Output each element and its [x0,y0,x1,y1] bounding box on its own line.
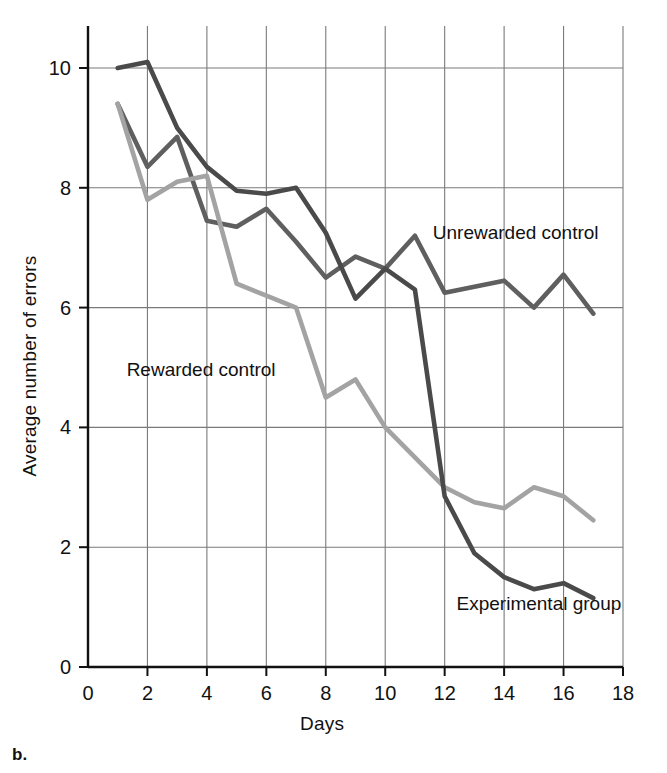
x-tick-label: 14 [493,682,515,704]
series-line [118,62,594,598]
axis-lines [88,26,623,667]
panel-label: b. [12,745,27,765]
x-tick-label: 6 [261,682,272,704]
series-label: Experimental group [457,593,622,614]
grid-lines [88,26,623,667]
data-series [118,62,594,598]
y-axis-title: Average number of errors [19,216,41,516]
x-tick-label: 4 [201,682,212,704]
x-tick-label: 0 [82,682,93,704]
y-tick-label: 0 [60,656,71,678]
x-tick-label: 2 [142,682,153,704]
x-tick-label: 16 [552,682,574,704]
x-tick-label: 10 [374,682,396,704]
series-label: Unrewarded control [433,222,599,243]
y-tick-label: 4 [60,416,71,438]
series-line [118,104,594,314]
y-tick-label: 2 [60,536,71,558]
y-tick-label: 10 [49,57,71,79]
y-tick-label: 6 [60,297,71,319]
y-tick-label: 8 [60,177,71,199]
x-axis-title: Days [300,713,344,735]
figure-panel: 0246810024681012141618 Unrewarded contro… [0,0,667,773]
x-tick-label: 12 [434,682,456,704]
line-chart: 0246810024681012141618 Unrewarded contro… [0,0,667,773]
x-tick-label: 18 [612,682,634,704]
series-label: Rewarded control [127,359,276,380]
x-tick-label: 8 [320,682,331,704]
